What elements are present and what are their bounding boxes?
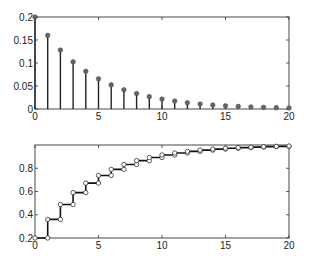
cdf-marker: [185, 149, 189, 153]
cdf-marker: [58, 202, 62, 206]
cdf-marker: [274, 144, 278, 148]
top-y-tick-label: 0.2: [19, 12, 33, 23]
top-x-tick-label: 20: [283, 111, 295, 122]
stem-marker: [261, 105, 266, 110]
stem-marker: [198, 102, 203, 107]
top-x-tick-label: 15: [220, 111, 232, 122]
top-y-tick-label: 0.15: [14, 35, 34, 46]
stem-marker: [223, 103, 228, 108]
bottom-y-tick-label: 0.8: [19, 163, 33, 174]
cdf-marker: [134, 158, 138, 162]
cdf-marker: [236, 145, 240, 149]
top-x-tick-label: 10: [156, 111, 168, 122]
cdf-marker: [96, 173, 100, 177]
top-x-tick-label: 5: [96, 111, 102, 122]
cdf-marker: [84, 190, 88, 194]
stem-marker: [274, 105, 279, 110]
cdf-marker: [71, 202, 75, 206]
cdf-marker: [160, 153, 164, 157]
top-y-tick-label: 0.1: [19, 58, 33, 69]
cdf-marker: [46, 217, 50, 221]
top-x-tick-label: 0: [32, 111, 38, 122]
stem-marker: [287, 106, 292, 111]
stem-marker: [211, 103, 216, 108]
stem-marker: [84, 69, 89, 74]
cdf-marker: [71, 190, 75, 194]
cdf-marker: [173, 151, 177, 155]
stem-marker: [236, 104, 241, 109]
stem-marker: [71, 60, 76, 65]
cdf-marker: [58, 217, 62, 221]
cdf-marker: [261, 144, 265, 148]
cdf-marker: [33, 236, 37, 240]
cdf-marker: [109, 173, 113, 177]
stem-marker: [147, 94, 152, 99]
stem-marker: [33, 15, 38, 20]
bottom-y-tick-label: 0.2: [19, 233, 33, 244]
stem-marker: [96, 77, 101, 82]
bottom-x-tick-label: 10: [156, 240, 168, 251]
cdf-marker: [96, 181, 100, 185]
stem-marker: [45, 33, 50, 38]
cdf-marker: [287, 144, 291, 148]
cdf-marker: [109, 167, 113, 171]
bottom-x-tick-label: 20: [283, 240, 295, 251]
top-y-tick-label: 0: [27, 104, 33, 115]
top-stem-plot: 0510152000.050.10.150.2: [14, 12, 295, 123]
stem-marker: [122, 87, 127, 92]
bottom-y-tick-label: 0.6: [19, 186, 33, 197]
cdf-marker: [84, 181, 88, 185]
stem-marker: [109, 83, 114, 88]
figure: 0510152000.050.10.150.2 051015200.20.40.…: [0, 0, 311, 267]
bottom-cdf-plot: 051015200.20.40.60.8: [19, 144, 295, 251]
bottom-x-tick-label: 5: [96, 240, 102, 251]
stem-marker: [185, 100, 190, 105]
cdf-marker: [211, 147, 215, 151]
bottom-x-tick-label: 15: [220, 240, 232, 251]
stem-marker: [249, 105, 254, 110]
stem-marker: [172, 99, 177, 104]
cdf-marker: [223, 146, 227, 150]
cdf-marker: [147, 155, 151, 159]
stem-marker: [160, 97, 165, 102]
bottom-y-tick-label: 0.4: [19, 209, 33, 220]
cdf-marker: [46, 236, 50, 240]
stem-marker: [58, 48, 63, 53]
cdf-marker: [198, 148, 202, 152]
cdf-marker: [122, 162, 126, 166]
bottom-x-tick-label: 0: [32, 240, 38, 251]
top-y-tick-label: 0.05: [14, 81, 34, 92]
cdf-marker: [122, 167, 126, 171]
stem-marker: [134, 91, 139, 96]
cdf-marker: [249, 145, 253, 149]
